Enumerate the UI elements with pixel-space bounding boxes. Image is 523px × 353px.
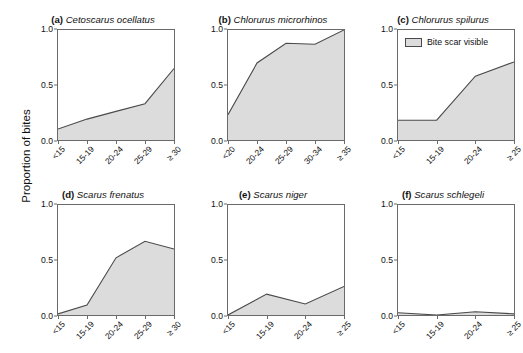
x-tick-label: 25-29 [261, 144, 295, 178]
x-tick-label: <20 [203, 144, 237, 178]
y-axis: 0.00.51.0 [31, 29, 57, 141]
x-tick-label: 20-24 [91, 144, 125, 178]
panel-species-name: Scarus schlegeli [414, 189, 484, 200]
x-tick-label: 15-19 [412, 319, 446, 353]
y-tick-label: 1.0 [211, 199, 223, 209]
y-tick-label: 0.0 [211, 311, 223, 321]
y-tick-label: 0.5 [211, 255, 223, 265]
area-fill [58, 241, 174, 315]
panel-species-name: Chlorurus spilurus [412, 14, 489, 25]
plot-area-wrapper: 0.00.51.0<1515-1920-2425-29≥ 30 [31, 29, 175, 141]
chart-panel-d: (d) Scarus frenatus0.00.51.0<1515-1920-2… [31, 189, 175, 316]
chart-panel-c: (c) Chlorurus spilurus0.00.51.0Bite scar… [371, 14, 515, 141]
y-tick-label: 0.0 [381, 136, 393, 146]
panel-letter: (e) [239, 189, 253, 200]
y-tick-label: 0.0 [211, 136, 223, 146]
x-axis: <1515-1920-24≥ 25 [397, 316, 515, 353]
x-axis: <1515-1920-2425-29≥ 30 [57, 316, 175, 353]
panel-species-name: Chlorurus microrhinos [234, 14, 328, 25]
area-fill [228, 30, 344, 140]
panel-species-name: Scarus frenatus [77, 189, 144, 200]
x-tick-label: <15 [33, 144, 67, 178]
x-tick-label: 25-29 [120, 319, 154, 353]
x-tick-label: ≥ 25 [489, 319, 523, 353]
x-tick-label: ≥ 30 [149, 144, 183, 178]
x-tick-label: 15-19 [242, 319, 276, 353]
chart-panel-f: (f) Scarus schlegeli0.00.51.0<1515-1920-… [371, 189, 515, 316]
y-tick-label: 1.0 [381, 199, 393, 209]
plot-box [57, 204, 175, 316]
x-tick-label: <15 [373, 319, 407, 353]
panel-letter: (f) [402, 189, 414, 200]
area-fill [58, 69, 174, 141]
x-axis: <2020-2425-2930-34≥ 35 [227, 141, 345, 185]
y-tick-label: 1.0 [41, 199, 53, 209]
y-tick-label: 0.0 [41, 136, 53, 146]
y-axis: 0.00.51.0 [371, 204, 397, 316]
x-tick-label: 30-34 [290, 144, 324, 178]
x-tick-label: ≥ 25 [489, 144, 523, 178]
x-axis: <1515-1920-2425-29≥ 30 [57, 141, 175, 185]
x-tick-label: ≥ 35 [319, 144, 353, 178]
y-axis: 0.00.51.0 [31, 204, 57, 316]
plot-area-wrapper: 0.00.51.0<1515-1920-24≥ 25 [201, 204, 345, 316]
x-tick-label: ≥ 25 [319, 319, 353, 353]
legend: Bite scar visible [405, 37, 488, 47]
x-tick-label: 20-24 [450, 144, 484, 178]
y-tick-label: 1.0 [211, 24, 223, 34]
x-tick-label: <15 [203, 319, 237, 353]
x-tick-label: 15-19 [62, 144, 96, 178]
plot-box [227, 29, 345, 141]
x-tick-label: <15 [373, 144, 407, 178]
plot-box [397, 204, 515, 316]
plot-area-wrapper: 0.00.51.0<1515-1920-24≥ 25 [371, 204, 515, 316]
x-tick-label: 20-24 [91, 319, 125, 353]
x-tick-label: 25-29 [120, 144, 154, 178]
y-tick-label: 1.0 [41, 24, 53, 34]
plot-area-wrapper: 0.00.51.0<2020-2425-2930-34≥ 35 [201, 29, 345, 141]
chart-panel-e: (e) Scarus niger0.00.51.0<1515-1920-24≥ … [201, 189, 345, 316]
x-tick-label: ≥ 30 [149, 319, 183, 353]
y-tick-label: 0.5 [41, 255, 53, 265]
y-axis: 0.00.51.0 [201, 29, 227, 141]
panel-letter: (a) [51, 14, 65, 25]
y-axis: 0.00.51.0 [201, 204, 227, 316]
legend-label: Bite scar visible [427, 37, 488, 47]
y-axis: 0.00.51.0 [371, 29, 397, 141]
x-tick-label: 20-24 [450, 319, 484, 353]
plot-box [57, 29, 175, 141]
panel-letter: (d) [62, 189, 77, 200]
x-axis: <1515-1920-24≥ 25 [397, 141, 515, 185]
y-tick-label: 1.0 [381, 24, 393, 34]
plot-area-wrapper: 0.00.51.0<1515-1920-2425-29≥ 30 [31, 204, 175, 316]
x-tick-label: 20-24 [280, 319, 314, 353]
chart-panel-a: (a) Cetoscarus ocellatus0.00.51.0<1515-1… [31, 14, 175, 141]
x-tick-label: <15 [33, 319, 67, 353]
panel-letter: (c) [397, 14, 411, 25]
chart-panel-b: (b) Chlorurus microrhinos0.00.51.0<2020-… [201, 14, 345, 141]
y-tick-label: 0.5 [41, 80, 53, 90]
panel-species-name: Cetoscarus ocellatus [66, 14, 155, 25]
x-tick-label: 15-19 [412, 144, 446, 178]
legend-swatch-bite-scar-visible [405, 38, 422, 47]
area-fill [398, 62, 514, 140]
y-tick-label: 0.5 [211, 80, 223, 90]
x-tick-label: 20-24 [232, 144, 266, 178]
y-tick-label: 0.0 [41, 311, 53, 321]
plot-box [227, 204, 345, 316]
panel-species-name: Scarus niger [253, 189, 307, 200]
y-tick-label: 0.0 [381, 311, 393, 321]
area-fill [228, 286, 344, 315]
x-tick-label: 15-19 [62, 319, 96, 353]
plot-area-wrapper: 0.00.51.0Bite scar visible<1515-1920-24≥… [371, 29, 515, 141]
x-axis: <1515-1920-24≥ 25 [227, 316, 345, 353]
y-tick-label: 0.5 [381, 80, 393, 90]
y-tick-label: 0.5 [381, 255, 393, 265]
